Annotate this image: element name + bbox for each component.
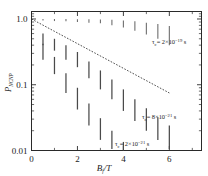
y-axis: 1.00.10.01 [12,14,202,156]
ann-tau-2: τc= 8×10−21 s [142,113,177,122]
ann-tau-3: τc= 2×10−21 s [115,140,150,149]
series-2 [43,34,169,150]
ann-tau-1: τc= 2×10−19 s [152,38,187,47]
x-axis-label: Bf/T [97,163,112,174]
x-tick-label: 2 [75,154,80,164]
x-tick-label: 4 [121,154,126,164]
y-axis-label-sub: NCNP [8,72,14,87]
x-axis-label-denom: T [106,163,112,173]
tau-value: = 2×10 [120,140,138,147]
chart-figure: 1.00.10.01 0246 PNCNP Bf/T τc= 2×10−19 s… [0,0,208,176]
annotations-group: τc= 2×10−19 sτc= 8×10−21 sτc= 2×10−21 s [115,38,187,149]
tau-unit: s [145,140,150,147]
tau-value: = 8×10 [147,113,165,120]
data-series-group [43,19,169,151]
y-tick-label: 0.01 [12,146,28,156]
tau-unit: s [182,38,187,45]
svg-text:Bf/T: Bf/T [97,163,112,174]
tau-value: = 2×10 [157,38,175,45]
x-axis: 0246 [29,12,192,164]
svg-text:PNCNP: PNCNP [3,72,14,93]
x-tick-label: 0 [29,154,34,164]
y-axis-label: PNCNP [3,72,14,93]
semilog-scatter-plot: 1.00.10.01 0246 PNCNP Bf/T τc= 2×10−19 s… [0,0,208,176]
x-tick-label: 6 [167,154,172,164]
y-tick-label: 1.0 [16,14,28,24]
tau-unit: s [172,113,177,120]
y-tick-label: 0.1 [16,80,27,90]
series-1 [43,19,169,45]
